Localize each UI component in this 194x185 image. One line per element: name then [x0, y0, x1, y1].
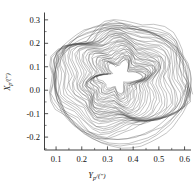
x-axis-title: Yp/(″) — [88, 170, 106, 181]
y-tick-label: 0.2 — [29, 38, 40, 48]
chart-canvas: 0.10.20.30.40.50.6 0.30.20.10.0-0.1-0.2 … — [0, 0, 194, 185]
orbit-plot-figure: 0.10.20.30.40.50.6 0.30.20.10.0-0.1-0.2 … — [0, 0, 194, 185]
x-tick-label: 0.5 — [154, 154, 165, 164]
y-tick-label: 0.3 — [29, 15, 40, 25]
x-tick-label: 0.4 — [128, 154, 139, 164]
x-tick-label: 0.6 — [179, 154, 190, 164]
y-axis-title: Xp/(″) — [2, 72, 13, 91]
y-tick-label: 0.1 — [29, 62, 40, 72]
x-tick-label: 0.3 — [102, 154, 113, 164]
x-tick-label: 0.1 — [51, 154, 62, 164]
svg-text:Xp/(″): Xp/(″) — [2, 72, 13, 91]
y-tick-label: -0.1 — [27, 109, 40, 119]
y-tick-label: 0.0 — [29, 85, 40, 95]
x-tick-label: 0.2 — [76, 154, 87, 164]
y-tick-label: -0.2 — [27, 132, 40, 142]
svg-text:Yp/(″): Yp/(″) — [88, 170, 106, 181]
